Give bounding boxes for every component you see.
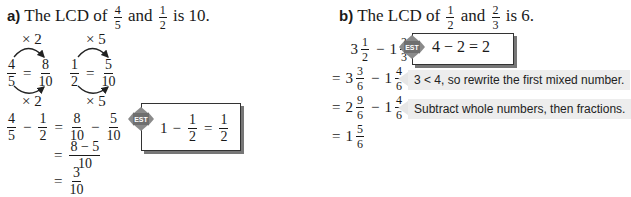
part-b-step-3: = 2 96 − 1 46 xyxy=(332,94,405,121)
note-rewrite: 3 < 4, so rewrite the first mixed number… xyxy=(408,70,630,90)
fraction: 12 xyxy=(38,112,47,143)
numerator: 2 xyxy=(492,4,500,18)
part-b-label: b) xyxy=(339,7,353,24)
numerator: 1 xyxy=(446,4,454,18)
whole-number: 3 xyxy=(350,41,358,58)
equals-sign: = xyxy=(332,99,340,116)
part-b-step-2: = 3 36 − 1 46 xyxy=(332,65,405,92)
denominator: 6 xyxy=(357,108,363,121)
estimate-icon: EST xyxy=(128,107,154,131)
equals-sign: = xyxy=(332,128,340,145)
heading-text: The LCD of xyxy=(357,6,440,25)
denominator: 2 xyxy=(160,18,166,31)
whole-number: 1 xyxy=(160,120,168,137)
whole-number: 1 xyxy=(384,99,392,116)
denominator: 10 xyxy=(101,74,115,89)
numerator: 1 xyxy=(188,113,197,129)
minus-sign: − xyxy=(371,99,379,116)
svg-text:EST: EST xyxy=(405,44,419,51)
numerator: 8 xyxy=(72,112,81,128)
fraction: 12 xyxy=(159,4,167,31)
whole-number: 3 xyxy=(345,70,353,87)
numerator: 1 xyxy=(159,4,167,18)
note-subtract: Subtract whole numbers, then fractions. xyxy=(408,99,631,119)
heading-text: is 10. xyxy=(173,6,210,25)
denominator: 2 xyxy=(220,129,227,144)
equals-sign: = xyxy=(54,173,62,190)
numerator: 4 xyxy=(7,112,16,128)
fraction: 810 xyxy=(38,58,52,89)
multiplier-label: × 5 xyxy=(86,93,106,110)
part-a-step-3: = 310 xyxy=(49,166,85,197)
fraction: 12 xyxy=(219,113,228,144)
denominator: 5 xyxy=(8,128,15,143)
minus-sign: − xyxy=(23,119,31,136)
fraction: 12 xyxy=(446,4,454,31)
part-b-heading: b) The LCD of 12 and 23 is 6. xyxy=(339,4,534,31)
denominator: 6 xyxy=(357,137,363,150)
multiplier-label: × 2 xyxy=(22,93,42,110)
denominator: 2 xyxy=(362,50,368,63)
equals-sign: = xyxy=(54,147,62,164)
denominator: 10 xyxy=(38,74,52,89)
minus-sign: − xyxy=(173,120,181,137)
fraction: 510 xyxy=(101,58,115,89)
numerator: 8 − 5 xyxy=(69,140,100,156)
part-a-step-1: 45 − 12 = 810 − 510 xyxy=(5,112,122,143)
denominator: 10 xyxy=(69,182,83,197)
denominator: 2 xyxy=(71,74,78,89)
heading-text: is 6. xyxy=(506,6,534,25)
numerator: 5 xyxy=(109,112,118,128)
fraction: 12 xyxy=(188,113,197,144)
denominator: 10 xyxy=(106,128,120,143)
equals-sign: = xyxy=(23,65,31,82)
numerator: 1 xyxy=(38,112,47,128)
fraction: 12 xyxy=(361,36,369,63)
equals-sign: = xyxy=(54,119,62,136)
heading-text: and xyxy=(461,6,486,25)
denominator: 2 xyxy=(189,129,196,144)
fraction: 45 xyxy=(7,112,16,143)
numerator: 5 xyxy=(104,58,113,74)
fraction: 310 xyxy=(69,166,83,197)
numerator: 1 xyxy=(70,58,79,74)
numerator: 1 xyxy=(219,113,228,129)
numerator: 3 xyxy=(72,166,81,182)
fraction: 36 xyxy=(356,65,364,92)
denominator: 2 xyxy=(447,18,453,31)
fraction: 45 xyxy=(7,58,16,89)
minus-sign: − xyxy=(371,70,379,87)
fraction: 510 xyxy=(106,112,120,143)
part-a-estimate: 1 − 12 = 12 xyxy=(160,113,230,144)
denominator: 5 xyxy=(8,74,15,89)
minus-sign: − xyxy=(376,41,384,58)
numerator: 1 xyxy=(361,36,369,50)
whole-number: 2 xyxy=(345,99,353,116)
numerator: 5 xyxy=(356,123,364,137)
equals-sign: = xyxy=(86,65,94,82)
whole-number: 1 xyxy=(345,128,353,145)
svg-text:EST: EST xyxy=(134,116,148,123)
whole-number: 1 xyxy=(389,41,397,58)
minus-sign: − xyxy=(91,119,99,136)
numerator: 8 xyxy=(41,58,50,74)
estimate-icon: EST xyxy=(399,35,425,59)
fraction: 56 xyxy=(356,123,364,150)
equals-sign: = xyxy=(204,120,212,137)
denominator: 6 xyxy=(357,79,363,92)
fraction: 23 xyxy=(492,4,500,31)
equivalent-fraction-2: 12 = 510 xyxy=(68,58,117,89)
note-arrow-icon xyxy=(398,72,408,86)
equals-sign: = xyxy=(332,70,340,87)
note-arrow-icon xyxy=(398,101,408,115)
denominator: 2 xyxy=(39,128,46,143)
denominator: 3 xyxy=(493,18,499,31)
fraction: 12 xyxy=(70,58,79,89)
equivalent-fraction-1: 45 = 810 xyxy=(5,58,54,89)
whole-number: 1 xyxy=(384,70,392,87)
numerator: 9 xyxy=(356,94,364,108)
numerator: 3 xyxy=(356,65,364,79)
part-b-step-4: = 1 56 xyxy=(332,123,366,150)
part-b-estimate: 4 − 2 = 2 xyxy=(432,38,490,56)
fraction: 96 xyxy=(356,94,364,121)
